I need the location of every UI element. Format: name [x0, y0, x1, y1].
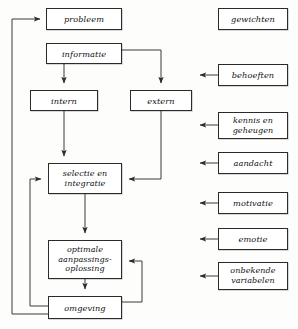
- node-emotie-label: emotie: [239, 234, 268, 244]
- node-emotie[interactable]: emotie: [218, 228, 288, 250]
- node-motivatie-label: motivatie: [233, 198, 273, 208]
- node-motivatie[interactable]: motivatie: [218, 192, 288, 214]
- node-extern[interactable]: extern: [130, 90, 192, 111]
- node-behoeften[interactable]: behoeften: [218, 64, 288, 86]
- node-kennis-en-geheugen[interactable]: kennis en geheugen: [218, 112, 288, 139]
- node-oplossing-label-line2: aanpassings-: [58, 255, 112, 264]
- node-informatie[interactable]: informatie: [46, 43, 122, 64]
- node-intern[interactable]: intern: [30, 90, 98, 111]
- connector-omgeving-to-selectie: [30, 179, 48, 306]
- node-oplossing-label-line1: optimale: [67, 245, 103, 254]
- connector-informatie-to-extern: [122, 50, 161, 83]
- connector-omgeving-to-oplossing: [122, 261, 142, 302]
- node-informatie-label: informatie: [62, 49, 106, 59]
- node-probleem[interactable]: probleem: [46, 8, 122, 30]
- node-kennis-label-line1: kennis en: [233, 116, 273, 126]
- node-selectie-en-integratie[interactable]: selectie en integratie: [48, 163, 122, 194]
- node-selectie-label-line1: selectie en: [63, 169, 108, 179]
- node-gewichten-label: gewichten: [231, 14, 275, 24]
- node-omgeving-label: omgeving: [64, 303, 105, 313]
- node-aandacht-label: aandacht: [233, 158, 272, 168]
- node-intern-label: intern: [51, 96, 77, 106]
- node-onbekende-label-line2: variabelen: [231, 276, 275, 286]
- node-onbekende-variabelen[interactable]: onbekende variabelen: [218, 262, 288, 290]
- node-gewichten[interactable]: gewichten: [218, 8, 288, 30]
- node-behoeften-label: behoeften: [232, 70, 274, 80]
- node-optimale-aanpassings-oplossing[interactable]: optimale aanpassings- oplossing: [48, 240, 122, 279]
- node-probleem-label: probleem: [64, 14, 104, 24]
- connector-extern-to-selectie: [129, 111, 161, 179]
- node-onbekende-label-line1: onbekende: [230, 266, 275, 276]
- diagram-canvas: probleem informatie intern extern select…: [0, 0, 298, 329]
- node-selectie-label-line2: integratie: [65, 179, 106, 189]
- node-oplossing-label-line3: oplossing: [65, 264, 104, 273]
- node-omgeving[interactable]: omgeving: [48, 296, 122, 319]
- node-extern-label: extern: [147, 96, 174, 106]
- node-kennis-label-line2: geheugen: [233, 126, 274, 136]
- node-aandacht[interactable]: aandacht: [218, 152, 288, 174]
